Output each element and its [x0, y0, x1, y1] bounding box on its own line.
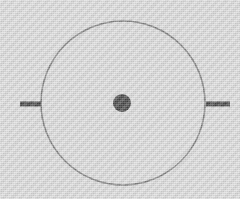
- diagram-canvas: [0, 0, 240, 199]
- figure-root: [0, 0, 240, 199]
- center-dot: [113, 94, 131, 112]
